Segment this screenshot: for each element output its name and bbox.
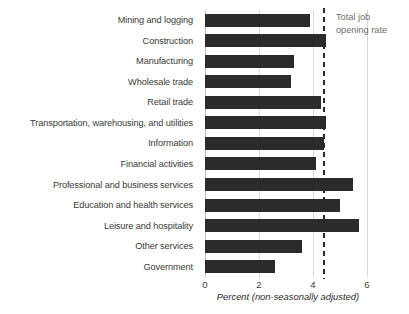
category-label-information: Information [148,138,199,148]
bar-construction [205,34,326,47]
bar-government [205,260,275,273]
bar-financial-activities [205,157,316,170]
category-label-leisure-and-hospitality: Leisure and hospitality [104,221,199,231]
category-axis-labels: Mining and logging Construction Manufact… [0,10,199,277]
total-job-opening-rate-line [323,8,326,279]
bar-row [205,174,371,195]
category-label-financial-activities: Financial activities [120,159,199,169]
category-label-construction: Construction [143,36,199,46]
bar-leisure-and-hospitality [205,219,359,232]
category-label-row: Government [0,256,199,277]
category-label-row: Retail trade [0,92,199,113]
x-tick-2: 2 [256,279,261,290]
category-label-government: Government [143,262,199,272]
bar-row [205,92,371,113]
category-label-row: Leisure and hospitality [0,215,199,236]
job-openings-rate-bar-chart: Mining and logging Construction Manufact… [0,0,409,314]
bar-row [205,236,371,257]
category-label-mining-and-logging: Mining and logging [118,15,199,25]
category-label-row: Transportation, warehousing, and utiliti… [0,113,199,134]
category-label-row: Education and health services [0,195,199,216]
bar-transportation-warehousing-and-utilities [205,116,326,129]
bar-row [205,51,371,72]
bar-rows [205,10,371,277]
bar-other-services [205,240,302,253]
category-label-retail-trade: Retail trade [147,97,199,107]
annotation-line-2: opening rate [336,24,387,37]
bar-information [205,137,324,150]
category-label-education-and-health-services: Education and health services [73,200,199,210]
x-axis-title: Percent (non-seasonally adjusted) [205,291,371,302]
category-label-row: Other services [0,236,199,257]
category-label-row: Manufacturing [0,51,199,72]
category-label-row: Mining and logging [0,10,199,31]
plot-area [205,10,371,277]
category-label-other-services: Other services [135,241,199,251]
bar-row [205,195,371,216]
category-label-wholesale-trade: Wholesale trade [128,77,199,87]
bar-wholesale-trade [205,75,291,88]
bar-row [205,215,371,236]
total-job-opening-rate-annotation: Total job opening rate [336,11,387,37]
category-label-professional-and-business-services: Professional and business services [53,180,199,190]
category-label-row: Wholesale trade [0,72,199,93]
category-label-row: Financial activities [0,154,199,175]
bar-row [205,256,371,277]
bar-professional-and-business-services [205,178,353,191]
bar-row [205,113,371,134]
category-label-manufacturing: Manufacturing [136,56,199,66]
bar-row [205,133,371,154]
bar-row [205,154,371,175]
category-label-row: Information [0,133,199,154]
bar-retail-trade [205,96,321,109]
bar-row [205,72,371,93]
annotation-line-1: Total job [336,11,387,24]
category-label-row: Construction [0,31,199,52]
x-tick-6: 6 [364,279,369,290]
bar-mining-and-logging [205,14,310,27]
category-label-transportation-warehousing-and-utilities: Transportation, warehousing, and utiliti… [30,118,199,128]
category-label-row: Professional and business services [0,174,199,195]
x-tick-4: 4 [310,279,315,290]
bar-manufacturing [205,55,294,68]
bar-education-and-health-services [205,199,340,212]
x-tick-0: 0 [202,279,207,290]
